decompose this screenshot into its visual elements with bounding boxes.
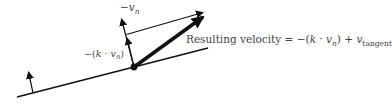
scaled-normal-label: −(k · vn)	[84, 48, 124, 59]
minus-sign: −	[120, 1, 129, 13]
prefix: −(	[84, 48, 96, 59]
tangent-subscript: tangent	[362, 39, 392, 48]
n-subscript: n	[135, 7, 140, 16]
resulting-velocity-label: Resulting velocity = −(k · vn) + vtangen…	[186, 33, 392, 45]
result-text: Resulting velocity	[186, 33, 281, 45]
negative-vn-label: −vn	[120, 1, 140, 13]
plus: ) +	[337, 33, 357, 45]
contact-point	[131, 64, 138, 71]
equals: = −(	[281, 33, 309, 45]
dot-operator: ·	[316, 33, 326, 45]
suffix: )	[120, 48, 124, 59]
dot-operator: ·	[101, 48, 110, 59]
scaled-normal-arrow-icon	[127, 38, 134, 67]
surface-normal-arrow-icon	[29, 72, 34, 93]
